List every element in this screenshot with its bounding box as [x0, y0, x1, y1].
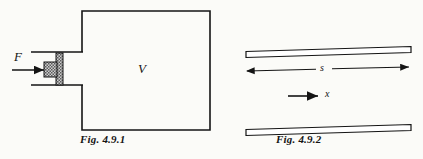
chamber-outline [82, 11, 210, 130]
separation-arrow [247, 67, 409, 71]
volume-label: V [138, 62, 146, 75]
figure-caption-2: Fig. 4.9.2 [276, 133, 321, 145]
figure-page: F V s x Fig. 4.9.1 Fig. 4.9.2 [0, 0, 423, 159]
figures-canvas [0, 0, 423, 159]
separation-label: s [320, 63, 324, 73]
top-plate [246, 47, 411, 58]
displacement-label: x [325, 89, 329, 99]
bottom-plate [246, 125, 411, 136]
piston [44, 53, 63, 85]
force-label: F [14, 50, 22, 63]
figure-caption-1: Fig. 4.9.1 [80, 133, 125, 145]
